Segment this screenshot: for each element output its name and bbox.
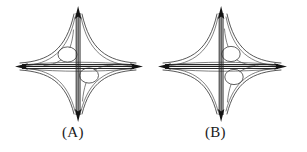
ramp-ll-inner [24,68,75,111]
ramp-lr-outer [82,70,136,114]
ramp-ll-inner [167,68,218,111]
ramp-ll-outer [20,70,74,114]
ramp-ul-inner [23,17,75,66]
loop-ramp-group-b [222,29,258,102]
ramp-ll-outer [163,70,217,114]
figure-root: (A) (B) [0,0,307,152]
ramp-lr-inner [81,68,132,111]
ramp-ur-outer [82,14,136,63]
loop-ramp-upper-right [222,46,240,61]
interchange-svg-b [150,0,300,128]
ramp-ur-inner [81,17,133,66]
loop-ramp-lower-right [80,68,99,83]
ramp-ul-outer [20,14,74,63]
interchange-svg-a [4,0,154,128]
loop-tail-lr-b [228,85,232,103]
interchange-diagram-a [4,0,154,128]
ramp-ur-inner [226,17,278,66]
loop-tail-ur-b [225,29,229,47]
panel-b-caption: (B) [205,124,226,141]
loop-tail-lr-a [95,65,113,70]
ramp-lr-inner [226,68,277,111]
ramp-lr-outer [227,70,281,114]
ramp-ur-outer [227,14,281,63]
ramp-ul-inner [166,17,218,66]
ramp-ul-outer [163,14,217,63]
panel-a-caption: (A) [62,124,84,141]
caption-row: (A) (B) [0,124,307,152]
interchange-diagram-b [150,0,300,128]
